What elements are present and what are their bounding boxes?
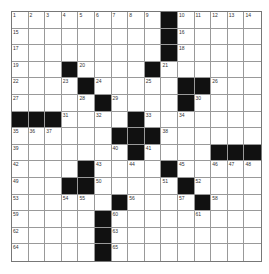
grid-cell[interactable] [228, 128, 245, 145]
grid-cell[interactable] [211, 45, 228, 62]
grid-cell[interactable]: 31 [62, 112, 79, 129]
grid-cell[interactable]: 19 [12, 62, 29, 79]
grid-cell[interactable] [228, 228, 245, 245]
grid-cell[interactable]: 40 [112, 145, 129, 162]
grid-cell[interactable] [112, 78, 129, 95]
grid-cell[interactable] [29, 195, 46, 212]
grid-cell[interactable]: 23 [62, 78, 79, 95]
grid-cell[interactable]: 56 [128, 195, 145, 212]
grid-cell[interactable] [244, 95, 261, 112]
grid-cell[interactable] [178, 145, 195, 162]
grid-cell[interactable]: 52 [195, 178, 212, 195]
grid-cell[interactable] [145, 195, 162, 212]
grid-cell[interactable] [112, 161, 129, 178]
grid-cell[interactable] [128, 29, 145, 46]
grid-cell[interactable] [161, 195, 178, 212]
grid-cell[interactable] [195, 145, 212, 162]
grid-cell[interactable] [112, 29, 129, 46]
grid-cell[interactable] [178, 128, 195, 145]
grid-cell[interactable] [145, 29, 162, 46]
grid-cell[interactable] [145, 161, 162, 178]
grid-cell[interactable] [195, 228, 212, 245]
grid-cell[interactable] [145, 244, 162, 261]
grid-cell[interactable] [244, 211, 261, 228]
grid-cell[interactable] [128, 228, 145, 245]
grid-cell[interactable]: 32 [95, 112, 112, 129]
grid-cell[interactable] [145, 178, 162, 195]
grid-cell[interactable] [62, 45, 79, 62]
grid-cell[interactable] [244, 244, 261, 261]
grid-cell[interactable] [161, 95, 178, 112]
grid-cell[interactable] [62, 95, 79, 112]
grid-cell[interactable] [29, 211, 46, 228]
grid-cell[interactable] [195, 161, 212, 178]
grid-cell[interactable]: 65 [112, 244, 129, 261]
grid-cell[interactable] [78, 45, 95, 62]
grid-cell[interactable] [228, 62, 245, 79]
grid-cell[interactable] [145, 95, 162, 112]
grid-cell[interactable]: 26 [211, 78, 228, 95]
grid-cell[interactable] [161, 211, 178, 228]
grid-cell[interactable]: 10 [178, 12, 195, 29]
grid-cell[interactable] [228, 211, 245, 228]
grid-cell[interactable]: 39 [12, 145, 29, 162]
grid-cell[interactable] [178, 62, 195, 79]
grid-cell[interactable] [228, 244, 245, 261]
grid-cell[interactable] [211, 62, 228, 79]
grid-cell[interactable] [29, 62, 46, 79]
grid-cell[interactable] [112, 45, 129, 62]
grid-cell[interactable]: 55 [78, 195, 95, 212]
grid-cell[interactable]: 59 [12, 211, 29, 228]
grid-cell[interactable]: 15 [12, 29, 29, 46]
grid-cell[interactable] [244, 62, 261, 79]
grid-cell[interactable] [45, 161, 62, 178]
grid-cell[interactable]: 22 [12, 78, 29, 95]
grid-cell[interactable]: 37 [45, 128, 62, 145]
grid-cell[interactable]: 5 [78, 12, 95, 29]
grid-cell[interactable] [112, 178, 129, 195]
grid-cell[interactable] [228, 45, 245, 62]
grid-cell[interactable] [145, 45, 162, 62]
grid-cell[interactable]: 63 [112, 228, 129, 245]
grid-cell[interactable]: 6 [95, 12, 112, 29]
grid-cell[interactable] [228, 178, 245, 195]
grid-cell[interactable] [29, 95, 46, 112]
grid-cell[interactable] [95, 29, 112, 46]
grid-cell[interactable]: 3 [45, 12, 62, 29]
grid-cell[interactable] [45, 62, 62, 79]
grid-cell[interactable] [95, 195, 112, 212]
grid-cell[interactable]: 4 [62, 12, 79, 29]
grid-cell[interactable]: 17 [12, 45, 29, 62]
grid-cell[interactable]: 57 [178, 195, 195, 212]
grid-cell[interactable]: 41 [145, 145, 162, 162]
grid-cell[interactable]: 24 [95, 78, 112, 95]
grid-cell[interactable] [195, 128, 212, 145]
grid-cell[interactable] [29, 244, 46, 261]
grid-cell[interactable] [244, 195, 261, 212]
grid-cell[interactable]: 44 [128, 161, 145, 178]
grid-cell[interactable] [128, 211, 145, 228]
grid-cell[interactable] [211, 228, 228, 245]
grid-cell[interactable]: 64 [12, 244, 29, 261]
grid-cell[interactable] [211, 112, 228, 129]
grid-cell[interactable] [211, 128, 228, 145]
grid-cell[interactable] [178, 244, 195, 261]
grid-cell[interactable]: 27 [12, 95, 29, 112]
grid-cell[interactable] [78, 228, 95, 245]
grid-cell[interactable]: 13 [228, 12, 245, 29]
grid-cell[interactable] [62, 128, 79, 145]
grid-cell[interactable] [244, 228, 261, 245]
grid-cell[interactable]: 61 [195, 211, 212, 228]
grid-cell[interactable] [211, 178, 228, 195]
grid-cell[interactable] [128, 45, 145, 62]
grid-cell[interactable] [228, 29, 245, 46]
grid-cell[interactable] [95, 145, 112, 162]
grid-cell[interactable]: 1 [12, 12, 29, 29]
grid-cell[interactable]: 30 [195, 95, 212, 112]
grid-cell[interactable] [244, 29, 261, 46]
grid-cell[interactable] [145, 228, 162, 245]
grid-cell[interactable]: 53 [12, 195, 29, 212]
grid-cell[interactable] [244, 78, 261, 95]
grid-cell[interactable] [211, 29, 228, 46]
grid-cell[interactable]: 16 [178, 29, 195, 46]
